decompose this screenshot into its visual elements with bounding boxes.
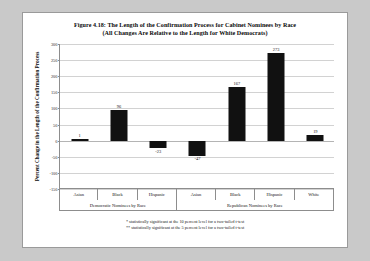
figure-title: Figure 4.18: The Length of the Confirmat… <box>23 21 347 37</box>
y-tick-label: 50 <box>53 122 57 127</box>
bar <box>110 110 127 141</box>
x-category-label: White <box>295 189 334 200</box>
x-category-label: Black <box>98 189 137 200</box>
bar-value-label: 19 <box>313 129 317 134</box>
bar-slot: 19 <box>296 44 335 188</box>
bar <box>189 141 206 156</box>
x-group-label: Republican Nominees by Race <box>177 200 334 211</box>
y-tick-label: -100 <box>49 170 57 175</box>
x-category-label: Black <box>216 189 255 200</box>
bar <box>71 139 88 141</box>
bar-value-label: -23 <box>155 149 161 154</box>
bar-slot: 273 <box>256 44 295 188</box>
x-category-label: Asian <box>177 189 216 200</box>
x-axis-categories: AsianBlackHispanicAsianBlackHispanicWhit… <box>59 189 334 200</box>
figure-notes: * statistically significant at the 10 pe… <box>23 219 347 232</box>
x-axis: AsianBlackHispanicAsianBlackHispanicWhit… <box>59 189 334 211</box>
x-category-label: Asian <box>59 189 98 200</box>
y-tick-label: 250 <box>51 58 58 63</box>
y-axis-title: Percent Change in the Length of the Conf… <box>32 44 42 189</box>
title-line-1: Figure 4.18: The Length of the Confirmat… <box>23 21 347 29</box>
y-tick-label: 200 <box>51 74 58 79</box>
bar-slot: 167 <box>217 44 256 188</box>
note-5-percent: ** statistically significant at the 5 pe… <box>23 225 347 231</box>
bar-value-label: 96 <box>117 104 121 109</box>
bar-value-label: 273 <box>273 47 280 52</box>
bar-slot: 96 <box>99 44 138 188</box>
bar <box>150 141 167 148</box>
x-category-label: Hispanic <box>138 189 177 200</box>
bar <box>268 53 285 141</box>
bar-slot: -23 <box>139 44 178 188</box>
y-tick-label: 100 <box>51 106 58 111</box>
x-group-label: Democratic Nominees by Race <box>59 200 177 211</box>
bar-value-label: 167 <box>233 81 240 86</box>
bar-value-label: -47 <box>195 156 201 161</box>
y-tick-label: 300 <box>51 42 58 47</box>
figure-page: Figure 4.18: The Length of the Confirmat… <box>22 12 348 248</box>
bar-slot: -47 <box>178 44 217 188</box>
y-tick-label: 0 <box>55 138 57 143</box>
y-tick-label: -150 <box>49 187 57 192</box>
y-tick-label: -50 <box>52 154 58 159</box>
x-axis-groups: Democratic Nominees by RaceRepublican No… <box>59 200 334 211</box>
plot-frame: 300250200150100500-50-100-150 196-23-471… <box>59 44 334 189</box>
bar <box>228 87 245 141</box>
bar-slot: 1 <box>60 44 99 188</box>
title-line-2: (All Changes Are Relative to the Length … <box>23 29 347 37</box>
bar-series: 196-23-4716727319 <box>60 44 334 188</box>
x-category-label: Hispanic <box>255 189 294 200</box>
y-tick-label: 150 <box>51 90 58 95</box>
bar-value-label: 1 <box>79 133 81 138</box>
bar <box>307 135 324 141</box>
plot-area: 300250200150100500-50-100-150 196-23-471… <box>59 44 334 189</box>
